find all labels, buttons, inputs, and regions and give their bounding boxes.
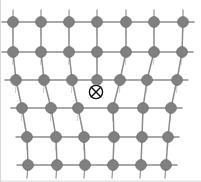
atom-node [166, 103, 177, 114]
atom-node [138, 103, 149, 114]
atom-node [73, 103, 84, 114]
atom-node [121, 47, 132, 58]
atom-node [51, 132, 62, 143]
atom-node [92, 47, 103, 58]
atom-node [64, 17, 75, 28]
atom-node [178, 17, 189, 28]
atom-node [108, 103, 119, 114]
atom-node [36, 47, 47, 58]
atom-node [92, 75, 103, 86]
atom-node [79, 132, 90, 143]
atom-node [142, 75, 153, 86]
atom-node [17, 103, 28, 114]
atom-node [108, 160, 119, 171]
atom-node [8, 47, 19, 58]
atom-node [149, 17, 160, 28]
atom-node [172, 75, 183, 86]
atom-node [137, 132, 148, 143]
atom-node [67, 75, 78, 86]
atom-node [52, 160, 63, 171]
atom-node [163, 132, 174, 143]
atom-node [149, 47, 160, 58]
atom-node [46, 103, 57, 114]
atom-node [92, 17, 103, 28]
atom-node [109, 132, 120, 143]
atom-node [177, 47, 188, 58]
atom-node [80, 160, 91, 171]
atom-node [22, 132, 33, 143]
atom-node [121, 17, 132, 28]
atom-node [36, 17, 47, 28]
atom-node [23, 160, 34, 171]
atom-node [8, 17, 19, 28]
atom-node [11, 75, 22, 86]
dislocation-symbol-group: edge dislocation line into the page [89, 85, 104, 100]
lattice-diagram: edge dislocation line into the page Edge… [0, 0, 201, 182]
atom-node [136, 160, 147, 171]
atom-node [115, 75, 126, 86]
atom-node [39, 75, 50, 86]
atom-node [64, 47, 75, 58]
edge-dislocation-figure: edge dislocation line into the page Edge… [0, 0, 201, 182]
atom-node [161, 160, 172, 171]
